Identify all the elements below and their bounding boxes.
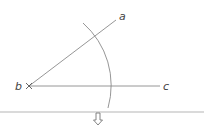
compass-arc	[83, 23, 111, 108]
ray-ba	[29, 20, 116, 86]
label-c: c	[163, 80, 169, 93]
label-b: b	[15, 80, 22, 93]
construction-diagram: a b c	[0, 0, 206, 132]
label-a: a	[119, 10, 126, 23]
down-double-arrow-icon[interactable]	[94, 113, 103, 125]
